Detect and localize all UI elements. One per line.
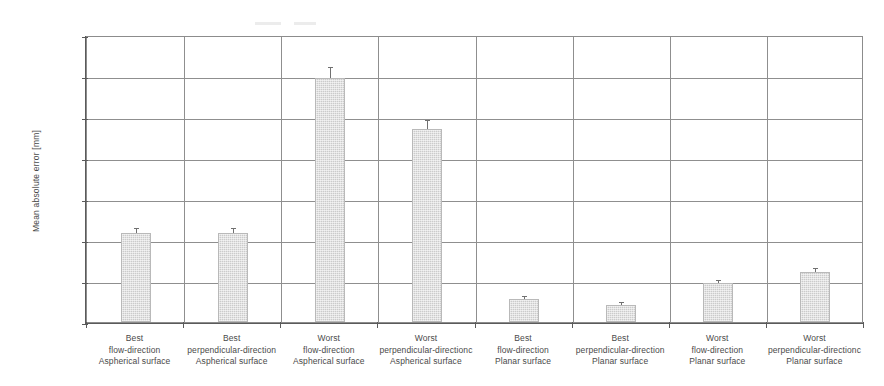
x-category-label-line: Worst bbox=[766, 333, 863, 345]
error-bar bbox=[233, 229, 234, 233]
x-category-label-line: Aspherical surface bbox=[183, 356, 280, 368]
x-category-label-line: Aspherical surface bbox=[377, 356, 474, 368]
y-tick-mark bbox=[82, 242, 88, 243]
scan-artifact bbox=[255, 22, 281, 25]
error-bar-cap bbox=[522, 296, 527, 297]
x-category-label: Bestflow-directionPlanar surface bbox=[475, 333, 572, 368]
error-bar bbox=[427, 121, 428, 129]
error-bar bbox=[330, 68, 331, 79]
scan-artifact bbox=[294, 22, 316, 25]
gridline-vertical bbox=[670, 37, 671, 322]
error-bar bbox=[524, 297, 525, 299]
gridline-horizontal bbox=[87, 242, 862, 243]
gridline-vertical bbox=[184, 37, 185, 322]
x-category-label-line: Worst bbox=[377, 333, 474, 345]
x-category-label-line: flow-direction bbox=[86, 345, 183, 357]
x-category-label-line: Aspherical surface bbox=[86, 356, 183, 368]
gridline-vertical bbox=[281, 37, 282, 322]
x-category-label: Bestperpendicular-directionAspherical su… bbox=[183, 333, 280, 368]
gridline-horizontal bbox=[87, 201, 862, 202]
error-bar bbox=[718, 281, 719, 283]
x-category-label: Worstflow-directionAspherical surface bbox=[280, 333, 377, 368]
x-tick-mark bbox=[86, 322, 87, 328]
x-category-label: Bestflow-directionAspherical surface bbox=[86, 333, 183, 368]
gridline-vertical bbox=[573, 37, 574, 322]
y-tick-mark bbox=[82, 160, 88, 161]
x-category-label-line: Best bbox=[475, 333, 572, 345]
bar bbox=[703, 283, 733, 322]
bar bbox=[218, 233, 248, 322]
x-tick-mark bbox=[280, 322, 281, 328]
bar bbox=[509, 299, 539, 322]
bar-chart: Mean absolute error [mm] 0.0000.0050.010… bbox=[0, 0, 884, 386]
x-tick-mark bbox=[669, 322, 670, 328]
error-bar bbox=[815, 269, 816, 272]
gridline-vertical bbox=[378, 37, 379, 322]
error-bar bbox=[621, 303, 622, 305]
x-category-label: Worstperpendicular-directioncAspherical … bbox=[377, 333, 474, 368]
x-category-label-line: perpendicular-directionc bbox=[377, 345, 474, 357]
x-category-label-line: flow-direction bbox=[280, 345, 377, 357]
y-tick-mark bbox=[82, 119, 88, 120]
x-tick-mark bbox=[766, 322, 767, 328]
error-bar-cap bbox=[231, 228, 236, 229]
bar bbox=[606, 305, 636, 322]
gridline-vertical bbox=[476, 37, 477, 322]
x-tick-mark bbox=[183, 322, 184, 328]
y-tick-mark bbox=[82, 37, 88, 38]
x-tick-mark bbox=[475, 322, 476, 328]
x-category-label-line: perpendicular-direction bbox=[572, 345, 669, 357]
gridline-horizontal bbox=[87, 283, 862, 284]
error-bar-cap bbox=[716, 280, 721, 281]
gridline-horizontal bbox=[87, 160, 862, 161]
y-tick-mark bbox=[82, 201, 88, 202]
error-bar-cap bbox=[813, 268, 818, 269]
x-category-label-line: Planar surface bbox=[572, 356, 669, 368]
bar bbox=[315, 78, 345, 322]
x-category-label-line: perpendicular-direction bbox=[183, 345, 280, 357]
gridline-horizontal bbox=[87, 78, 862, 79]
x-category-label-line: flow-direction bbox=[669, 345, 766, 357]
y-axis-title: Mean absolute error [mm] bbox=[31, 71, 41, 291]
error-bar-cap bbox=[134, 228, 139, 229]
x-category-label-line: flow-direction bbox=[475, 345, 572, 357]
x-category-label-line: Planar surface bbox=[475, 356, 572, 368]
plot-area bbox=[86, 36, 863, 323]
x-category-label-line: perpendicular-directionc bbox=[766, 345, 863, 357]
x-category-label-line: Worst bbox=[280, 333, 377, 345]
x-category-label-line: Worst bbox=[669, 333, 766, 345]
x-tick-mark bbox=[377, 322, 378, 328]
gridline-horizontal bbox=[87, 119, 862, 120]
x-category-label: Bestperpendicular-directionPlanar surfac… bbox=[572, 333, 669, 368]
error-bar-cap bbox=[425, 120, 430, 121]
x-category-label-line: Aspherical surface bbox=[280, 356, 377, 368]
error-bar bbox=[136, 229, 137, 233]
error-bar-cap bbox=[328, 67, 333, 68]
y-tick-mark bbox=[82, 283, 88, 284]
bar bbox=[121, 233, 151, 322]
error-bar-cap bbox=[619, 302, 624, 303]
x-category-label: Worstperpendicular-directioncPlanar surf… bbox=[766, 333, 863, 368]
x-category-label-line: Best bbox=[183, 333, 280, 345]
bar bbox=[412, 129, 442, 322]
x-category-label-line: Planar surface bbox=[669, 356, 766, 368]
x-category-label-line: Best bbox=[572, 333, 669, 345]
x-category-label-line: Planar surface bbox=[766, 356, 863, 368]
y-tick-mark bbox=[82, 324, 88, 325]
y-tick-mark bbox=[82, 78, 88, 79]
bar bbox=[800, 272, 830, 322]
gridline-vertical bbox=[767, 37, 768, 322]
x-tick-mark bbox=[572, 322, 573, 328]
x-tick-mark bbox=[863, 322, 864, 328]
x-category-label-line: Best bbox=[86, 333, 183, 345]
x-category-label: Worstflow-directionPlanar surface bbox=[669, 333, 766, 368]
